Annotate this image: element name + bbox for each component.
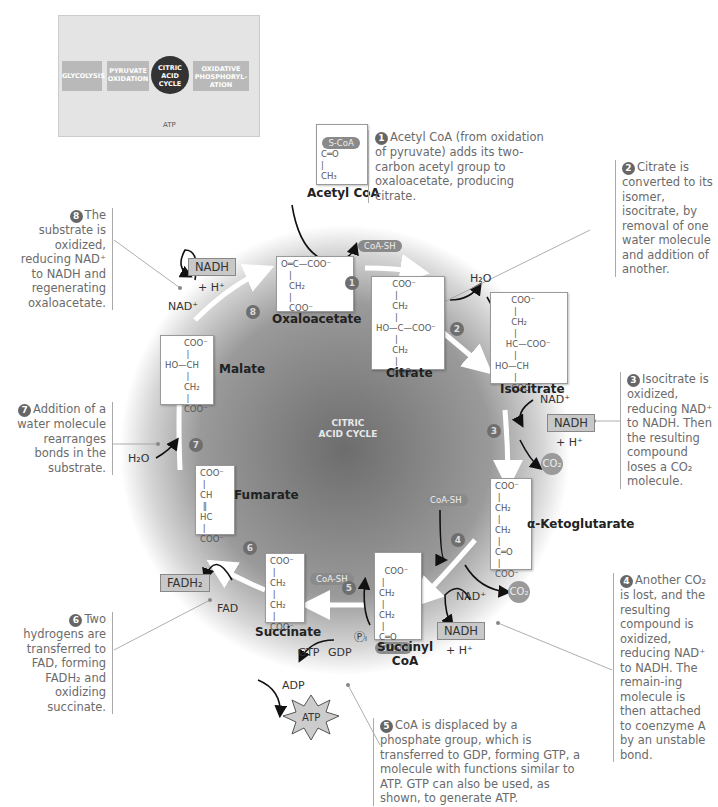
- isocitrate-structure: COO⁻ | CH₂ | HC—COO⁻ | HO—CH | COO⁻: [490, 292, 568, 384]
- caption-step3: 3Isocitrate is oxidized, reducing NAD⁺ t…: [620, 372, 717, 489]
- oxaloacetate-label: Oxaloacetate: [272, 312, 361, 326]
- co2-step3: CO₂: [541, 453, 563, 475]
- h2o-step7: H₂O: [128, 452, 149, 465]
- step-8-marker: 8: [246, 305, 260, 319]
- h-plus-step4: + H⁺: [446, 644, 473, 657]
- alpha-ketoglutarate-structure: COO⁻ | CH₂ | CH₂ | C═O | COO⁻: [490, 478, 532, 570]
- alpha-ketoglutarate-label: α-Ketoglutarate: [527, 517, 634, 531]
- succinate-label: Succinate: [255, 625, 321, 639]
- caption-step4: 4Another CO₂ is lost, and the resulting …: [613, 573, 714, 762]
- oxaloacetate-structure: O═C—COO⁻ | CH₂ | COO⁻: [276, 256, 354, 312]
- coa-sh-step1: CoA-SH: [358, 240, 402, 252]
- atp-label: ATP: [302, 712, 320, 723]
- inset-atp: ATP: [163, 121, 176, 129]
- step-5-marker: 5: [342, 581, 356, 595]
- h-plus-step8: + H⁺: [198, 281, 225, 294]
- co2-step4: CO₂: [508, 581, 530, 603]
- inset-oxidative-phosphorylation: OXIDATIVE PHOSPHORYL-ATION: [193, 61, 249, 91]
- step-1-marker: 1: [345, 276, 359, 290]
- succinyl-coa-label: Succinyl CoA: [375, 640, 435, 668]
- step-2-marker: 2: [450, 322, 464, 336]
- gtp-label: GTP: [298, 646, 319, 659]
- fad-step6: FAD: [217, 602, 238, 615]
- step-7-marker: 7: [189, 438, 203, 452]
- fumarate-label: Fumarate: [234, 488, 299, 502]
- caption-step6: 6Two hydrogens are transferred to FAD, f…: [16, 612, 113, 714]
- malate-label: Malate: [219, 362, 265, 376]
- h2o-step2: H₂O: [470, 272, 491, 285]
- nadh-step8: NADH: [188, 258, 236, 276]
- caption-step8: 8The substrate is oxidized, reducing NAD…: [16, 208, 113, 310]
- adp-label: ADP: [282, 679, 305, 692]
- step-4-marker: 4: [451, 533, 465, 547]
- citrate-structure: COO⁻ | CH₂ | HO—C—COO⁻ | CH₂ | COO⁻: [371, 276, 445, 370]
- caption-step5: 5CoA is displaced by a phosphate group, …: [373, 718, 580, 806]
- caption-step7: 7Addition of a water molecule rearranges…: [16, 402, 113, 475]
- succinate-structure: COO⁻ | CH₂ | CH₂ | COO⁻: [265, 553, 305, 623]
- coa-sh-step4: CoA-SH: [424, 494, 468, 506]
- nad-step8: NAD⁺: [168, 300, 198, 313]
- acetyl-coa-structure: S-CoAC═O | CH₃: [316, 124, 368, 185]
- nad-step3: NAD⁺: [540, 393, 570, 406]
- pi-step5: Ⓟᵢ: [354, 628, 367, 644]
- nad-step4: NAD⁺: [456, 590, 486, 603]
- inset-pyruvate-oxidation: PYRUVATE OXIDATION: [107, 61, 149, 91]
- step-3-marker: 3: [487, 424, 501, 438]
- fadh2-step6: FADH₂: [160, 574, 210, 592]
- step-6-marker: 6: [243, 541, 257, 555]
- caption-step2: 2Citrate is converted to its isomer, iso…: [615, 160, 714, 277]
- malate-structure: COO⁻ | HO—CH | CH₂ | COO⁻: [160, 335, 214, 405]
- succinyl-coa-structure: COO⁻ | CH₂ | CH₂ | C═OS-CoA: [374, 552, 422, 640]
- gdp-label: GDP: [328, 646, 352, 659]
- inset-citric-acid-cycle: CITRIC ACID CYCLE: [151, 56, 189, 94]
- nadh-step4: NADH: [437, 622, 485, 640]
- center-label: CITRIC ACID CYCLE: [318, 418, 378, 440]
- s-coa-tag: S-CoA: [322, 137, 359, 149]
- fumarate-structure: COO⁻ | CH ‖ HC | COO⁻: [195, 465, 235, 535]
- overview-inset: GLYCOLYSIS PYRUVATE OXIDATION CITRIC ACI…: [58, 15, 260, 137]
- nadh-step3: NADH: [547, 414, 595, 432]
- h-plus-step3: + H⁺: [556, 436, 583, 449]
- inset-glycolysis: GLYCOLYSIS: [62, 61, 102, 91]
- caption-step1: 1Acetyl CoA (from oxidation of pyruvate)…: [368, 130, 550, 203]
- citrate-label: Citrate: [386, 366, 433, 380]
